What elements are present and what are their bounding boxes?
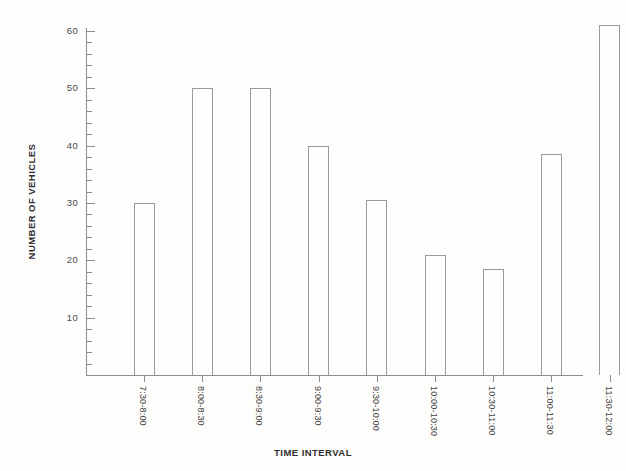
bar: [483, 269, 504, 375]
y-axis-minor-tick: [86, 192, 92, 193]
x-axis-line: [86, 375, 583, 376]
y-axis-minor-tick: [86, 214, 92, 215]
y-axis-tick-label: 40: [50, 140, 78, 151]
y-axis-minor-tick: [86, 77, 92, 78]
x-axis-title: TIME INTERVAL: [0, 447, 626, 458]
y-axis-major-tick: [86, 31, 95, 32]
y-axis-minor-tick: [86, 134, 92, 135]
x-axis-tick-label: 9:30-10:00: [371, 386, 381, 431]
y-axis-minor-tick: [86, 123, 92, 124]
bar: [134, 203, 155, 375]
y-axis-minor-tick: [86, 180, 92, 181]
y-axis-minor-tick: [86, 54, 92, 55]
x-axis-tick: [377, 375, 378, 382]
y-axis-minor-tick: [86, 283, 92, 284]
y-axis-title: NUMBER OF VEHICLES: [26, 127, 37, 277]
y-axis-minor-tick: [86, 169, 92, 170]
x-axis-tick: [202, 375, 203, 382]
bar: [541, 154, 562, 375]
y-axis-line: [86, 28, 87, 376]
x-axis-tick: [144, 375, 145, 382]
y-axis-minor-tick: [86, 249, 92, 250]
y-axis-minor-tick: [86, 364, 92, 365]
y-axis-tick-label: 10: [50, 312, 78, 323]
bar: [308, 146, 329, 375]
x-axis-tick-label: 10:00-10:30: [429, 386, 439, 436]
x-axis-tick-label: 11:30-12:00: [604, 386, 614, 436]
x-axis-tick-label: 9:00-9:30: [313, 386, 323, 426]
y-axis-tick-label: 30: [50, 197, 78, 208]
y-axis-minor-tick: [86, 329, 92, 330]
y-axis-minor-tick: [86, 272, 92, 273]
x-axis-tick: [319, 375, 320, 382]
x-axis-tick-label: 8:00-8:30: [196, 386, 206, 426]
bar-chart-plot-area: 102030405060 7:30-8:008:00-8:308:30-9:00…: [0, 0, 626, 471]
y-axis-minor-tick: [86, 100, 92, 101]
x-axis-tick: [260, 375, 261, 382]
y-axis-minor-tick: [86, 42, 92, 43]
bar: [250, 88, 271, 375]
chart-page: 102030405060 7:30-8:008:00-8:308:30-9:00…: [0, 0, 626, 471]
y-axis-minor-tick: [86, 341, 92, 342]
y-axis-tick-label: 50: [50, 82, 78, 93]
y-axis-minor-tick: [86, 306, 92, 307]
bar: [366, 200, 387, 375]
y-axis-minor-tick: [86, 111, 92, 112]
y-axis-tick-label: 20: [50, 254, 78, 265]
y-axis-major-tick: [86, 318, 95, 319]
y-axis-major-tick: [86, 88, 95, 89]
y-axis-minor-tick: [86, 226, 92, 227]
y-axis-tick-label: 60: [50, 25, 78, 36]
y-axis-major-tick: [86, 203, 95, 204]
x-axis-tick-label: 11:00-11:30: [545, 386, 555, 435]
x-axis-tick: [551, 375, 552, 382]
y-axis-minor-tick: [86, 237, 92, 238]
x-axis-tick: [610, 375, 611, 382]
y-axis-minor-tick: [86, 65, 92, 66]
x-axis-tick-label: 8:30-9:00: [254, 386, 264, 426]
x-axis-tick: [493, 375, 494, 382]
y-axis-major-tick: [86, 260, 95, 261]
bar: [599, 25, 620, 375]
y-axis-minor-tick: [86, 352, 92, 353]
x-axis-tick: [435, 375, 436, 382]
y-axis-minor-tick: [86, 295, 92, 296]
x-axis-tick-label: 10:30-11:00: [487, 386, 497, 436]
bar: [192, 88, 213, 375]
bar: [425, 255, 446, 375]
y-axis-minor-tick: [86, 157, 92, 158]
y-axis-major-tick: [86, 146, 95, 147]
x-axis-tick-label: 7:30-8:00: [138, 386, 148, 426]
